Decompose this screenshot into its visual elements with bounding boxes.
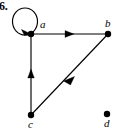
vertex-a xyxy=(28,31,34,37)
vertex-b xyxy=(105,31,111,37)
vertex-label-c: c xyxy=(28,119,33,130)
edge-b-to-c xyxy=(31,34,108,115)
edge-b-to-c-arrowhead xyxy=(64,77,75,86)
edge-b-to-c-line xyxy=(31,34,108,115)
figure-container: 6. a b c d xyxy=(0,0,123,133)
edge-c-to-a-arrowhead xyxy=(28,69,35,78)
vertex-label-b: b xyxy=(105,18,111,29)
vertex-label-d: d xyxy=(104,118,110,129)
vertex-label-a: a xyxy=(40,19,46,30)
edge-loop-a xyxy=(13,8,38,36)
edge-a-to-b xyxy=(31,31,108,38)
edge-a-to-b-arrowhead xyxy=(65,31,74,38)
edge-c-to-a xyxy=(28,34,35,115)
